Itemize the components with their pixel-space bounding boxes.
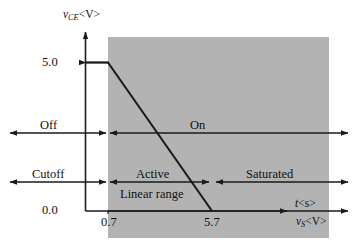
- y-tick-label-5: 5.0: [42, 56, 58, 69]
- region-label-active: Active: [136, 168, 169, 181]
- x-tick-label-07: 0.7: [101, 216, 117, 229]
- region-label-off: Off: [40, 119, 57, 132]
- y-axis-label-unit: <V>: [79, 8, 100, 20]
- x-axis-label: vS<V>: [296, 216, 327, 228]
- x-tick-label-57: 5.7: [204, 216, 220, 229]
- region-label-saturated: Saturated: [246, 168, 293, 181]
- y-tick-label-0: 0.0: [42, 204, 58, 217]
- region-label-on: On: [190, 119, 205, 132]
- x-axis-label-unit: <V>: [305, 215, 326, 227]
- transistor-operating-region-figure: vCE<V> 5.0 0.0 0.7 5.7 Off On Cutoff Act…: [0, 0, 356, 249]
- y-axis-label: vCE<V>: [63, 9, 100, 21]
- region-label-linear-range: Linear range: [120, 188, 184, 201]
- time-axis-label-unit: <s>: [298, 197, 315, 209]
- y-axis-label-subscript: CE: [68, 13, 79, 22]
- region-label-cutoff: Cutoff: [32, 168, 64, 181]
- x-axis-label-subscript: S: [301, 220, 305, 229]
- time-axis-label: t<s>: [295, 198, 316, 210]
